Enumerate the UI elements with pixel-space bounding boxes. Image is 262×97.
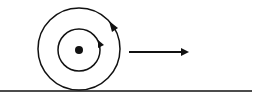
center-dot	[75, 46, 83, 54]
rolling-wheel-diagram	[0, 0, 262, 97]
background	[0, 0, 262, 97]
